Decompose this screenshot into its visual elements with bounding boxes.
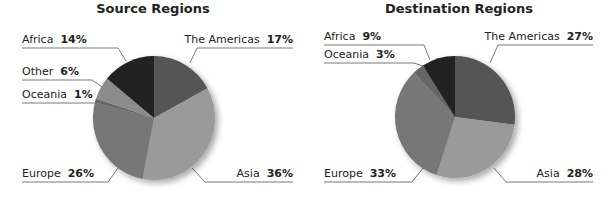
slice-the-americas — [455, 56, 515, 125]
label-europe: Europe 33% — [324, 167, 396, 180]
label-oceania: Oceania 3% — [324, 48, 395, 61]
source-regions-chart: Source Regions Africa 14% Other 6% Ocean… — [0, 0, 306, 199]
label-europe: Europe 26% — [22, 167, 94, 180]
label-asia: Asia 36% — [237, 167, 293, 180]
label-americas: The Americas 27% — [485, 30, 593, 43]
label-africa: Africa 9% — [324, 30, 381, 43]
label-americas: The Americas 17% — [185, 33, 293, 46]
label-other: Other 6% — [22, 65, 79, 78]
label-asia: Asia 28% — [537, 167, 593, 180]
destination-regions-chart: Destination Regions Africa 9% Oceania 3%… — [306, 0, 612, 199]
label-oceania: Oceania 1% — [22, 88, 93, 101]
label-africa: Africa 14% — [22, 33, 87, 46]
